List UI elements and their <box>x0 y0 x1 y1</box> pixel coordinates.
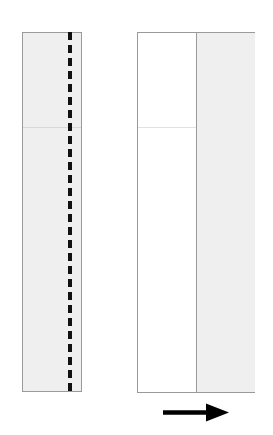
paper-folding-diagram <box>0 0 273 435</box>
valley-fold-line-icon <box>68 32 72 392</box>
unfolded-strip-panel <box>22 32 82 392</box>
folded-flap-region <box>196 33 255 392</box>
left-strip-horizontal-crease <box>23 127 81 128</box>
step-direction-arrow-icon <box>160 401 232 425</box>
folded-strip-panel <box>137 32 255 393</box>
